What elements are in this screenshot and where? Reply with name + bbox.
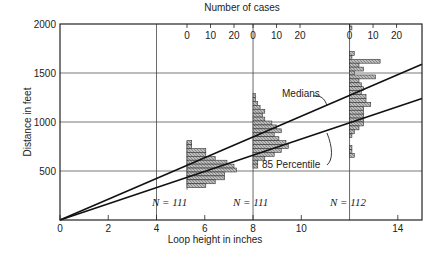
y-tick-label: 1500 [34,68,57,79]
histogram-bar [253,113,262,117]
n-label-2: N = 111 [232,196,268,208]
x-tick-label: 0 [57,223,63,234]
y-tick-label: 1000 [34,117,57,128]
histogram-bar [253,105,260,109]
histogram-bar [350,134,352,138]
histogram-bar [350,98,366,102]
x-tick-label: 6 [202,223,208,234]
top-tick-label: 10 [271,30,283,41]
histogram-bar [253,94,255,98]
top-tick-label: 10 [205,30,217,41]
axis-labels: Number of cases Loop height in inches Di… [22,2,366,245]
histogram-bar [187,176,225,180]
y-tick-label: 500 [39,166,56,177]
histogram-bar [253,141,286,145]
histogram-bar [350,59,381,63]
grid-lines [60,24,422,220]
n-label-1: N = 111 [151,196,187,208]
histogram-bar [350,63,359,67]
histogram-bar [253,101,258,105]
top-tick-label: 20 [294,30,306,41]
top-axis-label: Number of cases [204,2,280,13]
histogram-bar [187,141,192,145]
x-tick-label: 4 [154,223,160,234]
top-tick-label: 0 [347,30,353,41]
histogram-bar [350,71,355,75]
histogram-bar [253,98,255,102]
histogram-bar [187,180,215,184]
y-tick-label: 2000 [34,19,57,30]
top-tick-label: 20 [391,30,403,41]
histogram-bar [350,75,376,79]
histogram-bar [253,109,265,113]
x-tick-label: 8 [250,223,256,234]
x-tick-label: 2 [105,223,111,234]
histogram-bar [350,110,364,114]
histogram-bar [253,164,258,168]
chart: 500100015002000024681014010200102001020 … [0,0,443,262]
histogram-bar [187,145,192,149]
top-tick-label: 20 [228,30,240,41]
histogram-bar [253,160,258,164]
histogram-bar [253,137,279,141]
histogram-bar [350,83,362,87]
histogram-bar [350,153,355,157]
histogram-bar [350,102,371,106]
histogram-bar [350,55,352,59]
p85-label: 85 Percentile [262,159,321,170]
y-axis-label: Distance in feet [22,87,33,156]
histogram-bar [350,114,364,118]
p85-arrow [327,133,332,165]
medians-label: Medians [282,88,320,99]
histogram-bar [187,148,206,152]
histogram-bar [350,51,355,55]
histogram-bar [187,152,206,156]
x-tick-label: 14 [392,223,404,234]
top-tick-label: 10 [367,30,379,41]
histogram-bar [253,117,265,121]
top-tick-label: 0 [250,30,256,41]
histogram-bar [350,67,364,71]
histogram-bar [350,106,364,110]
histogram-bar [350,130,355,134]
histogram-bar [350,126,359,130]
histogram-bar [187,184,206,188]
x-tick-label: 10 [296,223,308,234]
histogram-bar [350,79,359,83]
top-tick-label: 0 [184,30,190,41]
x-axis-label: Loop height in inches [168,234,263,245]
histogram-bar [350,146,352,150]
histogram-bar [350,149,352,153]
histogram-bar [253,121,272,125]
n-label-3: N = 112 [329,196,366,208]
